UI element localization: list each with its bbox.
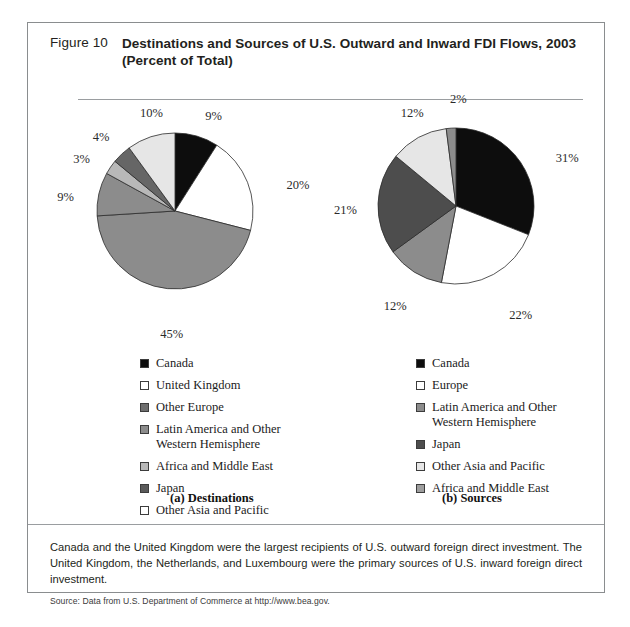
legend-swatch-icon — [140, 484, 149, 493]
legend-sources: CanadaEuropeLatin America and Other West… — [416, 356, 582, 503]
pie-percent-label: 3% — [73, 152, 90, 167]
legend-swatch-icon — [140, 359, 149, 368]
legend-item-label: Latin America and Other Western Hemisphe… — [156, 422, 306, 452]
legend-item-label: Latin America and Other Western Hemisphe… — [432, 400, 582, 430]
subcaption-sources: (b) Sources — [442, 491, 502, 506]
legend-item[interactable]: Japan — [416, 437, 582, 452]
pie-percent-label: 22% — [509, 308, 532, 323]
pie-percent-label: 10% — [140, 106, 163, 121]
legend-item[interactable]: Latin America and Other Western Hemisphe… — [140, 422, 306, 452]
legend-item-label: Other Europe — [156, 400, 224, 415]
legend-item-label: Europe — [432, 378, 468, 393]
pie-percent-label: 45% — [160, 327, 183, 342]
legend-swatch-icon — [140, 506, 149, 515]
legend-item[interactable]: United Kingdom — [140, 378, 306, 393]
legend-item[interactable]: Canada — [140, 356, 306, 371]
note-block: Canada and the United Kingdom were the l… — [28, 525, 604, 606]
legend-item[interactable]: Africa and Middle East — [140, 459, 306, 474]
legend-item-label: United Kingdom — [156, 378, 240, 393]
pie-percent-label: 9% — [205, 109, 222, 124]
source-text: Source: Data from U.S. Department of Com… — [50, 596, 582, 606]
legend-swatch-icon — [416, 359, 425, 368]
pie-percent-label: 31% — [556, 151, 579, 166]
figure-container: Figure 10 Destinations and Sources of U.… — [27, 22, 605, 593]
pie-percent-label: 4% — [93, 130, 110, 145]
legend-item[interactable]: Europe — [416, 378, 582, 393]
legend-item[interactable]: Other Europe — [140, 400, 306, 415]
legend-item-label: Canada — [156, 356, 193, 371]
legend-item[interactable]: Canada — [416, 356, 582, 371]
legend-item-label: Japan — [432, 437, 460, 452]
legend-item-label: Canada — [432, 356, 469, 371]
legend-swatch-icon — [416, 440, 425, 449]
pie-percent-label: 21% — [334, 203, 357, 218]
legend-swatch-icon — [416, 462, 425, 471]
legend-swatch-icon — [416, 381, 425, 390]
pie-percent-label: 9% — [57, 190, 74, 205]
legend-item-label: Africa and Middle East — [156, 459, 273, 474]
legend-swatch-icon — [416, 484, 425, 493]
subcaption-destinations: (a) Destinations — [170, 491, 254, 506]
note-text: Canada and the United Kingdom were the l… — [50, 539, 582, 587]
legend-swatch-icon — [416, 403, 425, 412]
legend-item-label: Other Asia and Pacific — [432, 459, 545, 474]
legend-item[interactable]: Latin America and Other Western Hemisphe… — [416, 400, 582, 430]
legend-swatch-icon — [140, 462, 149, 471]
legend-swatch-icon — [140, 425, 149, 434]
legend-item[interactable]: Other Asia and Pacific — [416, 459, 582, 474]
pie-percent-label: 2% — [450, 92, 467, 107]
legend-swatch-icon — [140, 381, 149, 390]
legend-swatch-icon — [140, 403, 149, 412]
pie-percent-label: 12% — [401, 106, 424, 121]
pie-percent-label: 12% — [384, 299, 407, 314]
pie-percent-label: 20% — [286, 178, 309, 193]
